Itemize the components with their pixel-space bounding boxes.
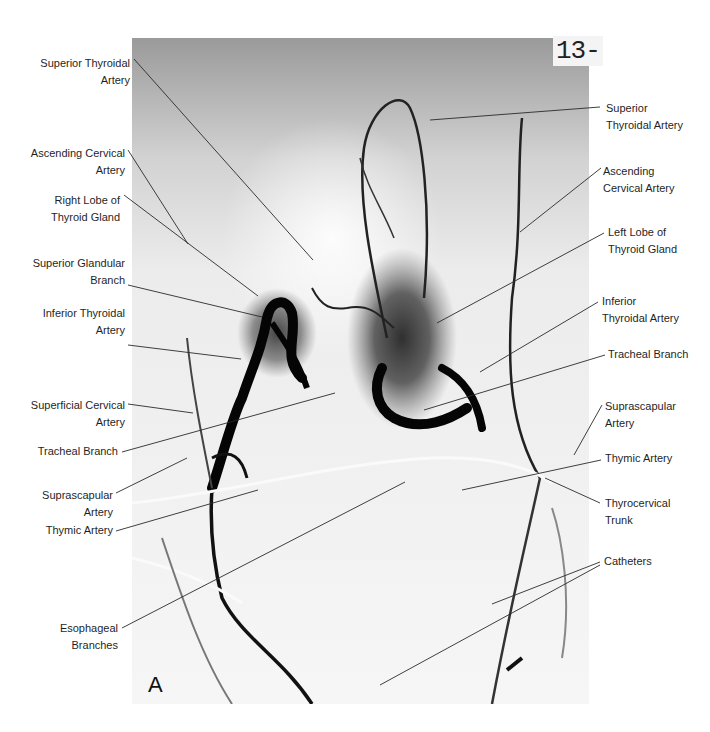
label-thymic-artery-l: Thymic Artery: [605, 450, 672, 467]
label-line: Inferior Thyroidal: [43, 305, 125, 322]
film-number-tag: 13-: [553, 36, 603, 66]
angiogram-figure: 13- A Superior ThyroidalArteryAscending …: [0, 0, 710, 732]
label-line: Tracheal Branch: [38, 443, 118, 460]
label-superficial-cervical: Superficial CervicalArtery: [31, 397, 125, 431]
label-line: Thyroidal Artery: [606, 117, 683, 134]
label-line: Superior Thyroidal: [40, 55, 130, 72]
label-line: Thymic Artery: [46, 522, 113, 539]
label-left-lobe: Left Lobe ofThyroid Gland: [608, 224, 677, 258]
label-line: Esophageal: [60, 620, 118, 637]
label-tracheal-branch-l: Tracheal Branch: [608, 346, 688, 363]
label-line: Thymic Artery: [605, 450, 672, 467]
label-ascending-cervical-r: Ascending CervicalArtery: [31, 145, 125, 179]
label-line: Tracheal Branch: [608, 346, 688, 363]
label-line: Branch: [33, 272, 125, 289]
label-line: Trunk: [605, 512, 670, 529]
label-line: Artery: [605, 415, 676, 432]
label-line: Superior Glandular: [33, 255, 125, 272]
label-line: Cervical Artery: [603, 180, 675, 197]
label-suprascapular-l: SuprascapularArtery: [605, 398, 676, 432]
label-ascending-cervical-l: AscendingCervical Artery: [603, 163, 675, 197]
label-line: Inferior: [602, 293, 679, 310]
label-thyrocervical-trunk: ThyrocervicalTrunk: [605, 495, 670, 529]
label-line: Left Lobe of: [608, 224, 677, 241]
label-line: Branches: [60, 637, 118, 654]
label-sup-thyroid-artery-l: SuperiorThyroidal Artery: [606, 100, 683, 134]
label-inf-thyroid-artery-r: Inferior ThyroidalArtery: [43, 305, 125, 339]
label-sup-thyroid-artery-r: Superior ThyroidalArtery: [40, 55, 130, 89]
label-inf-thyroid-artery-l: InferiorThyroidal Artery: [602, 293, 679, 327]
label-line: Artery: [40, 72, 130, 89]
label-catheters: Catheters: [604, 553, 652, 570]
label-line: Ascending: [603, 163, 675, 180]
label-line: Thyroid Gland: [608, 241, 677, 258]
label-line: Suprascapular: [42, 487, 113, 504]
label-line: Artery: [31, 414, 125, 431]
label-line: Superior: [606, 100, 683, 117]
label-line: Superficial Cervical: [31, 397, 125, 414]
label-esophageal-branches: EsophagealBranches: [60, 620, 118, 654]
label-line: Artery: [43, 322, 125, 339]
label-sup-glandular-branch: Superior GlandularBranch: [33, 255, 125, 289]
label-line: Catheters: [604, 553, 652, 570]
label-line: Thyroid Gland: [51, 209, 120, 226]
label-line: Thyrocervical: [605, 495, 670, 512]
label-line: Ascending Cervical: [31, 145, 125, 162]
label-line: Artery: [42, 504, 113, 521]
label-line: Suprascapular: [605, 398, 676, 415]
label-thymic-artery-r: Thymic Artery: [46, 522, 113, 539]
label-right-lobe: Right Lobe ofThyroid Gland: [51, 192, 120, 226]
label-line: Artery: [31, 162, 125, 179]
label-line: Right Lobe of: [51, 192, 120, 209]
label-tracheal-branch-r: Tracheal Branch: [38, 443, 118, 460]
panel-letter: A: [148, 672, 163, 698]
label-suprascapular-r: SuprascapularArtery: [42, 487, 113, 521]
label-line: Thyroidal Artery: [602, 310, 679, 327]
angiogram-image: [132, 38, 589, 704]
